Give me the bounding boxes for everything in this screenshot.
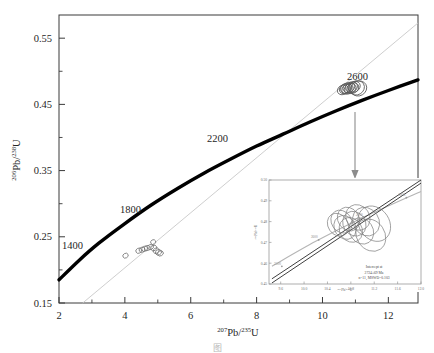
inset-plot: 9.610.010.410.811.211.612.0 0.450.460.47… xyxy=(251,178,425,292)
x-tick-label: 10 xyxy=(317,310,328,321)
age-label-1400: 1400 xyxy=(62,240,83,251)
inset-y-tick-label: 0.50 xyxy=(261,178,267,182)
y-axis-title-post: U xyxy=(11,139,22,147)
inset-x-tick-label: 10.4 xyxy=(324,287,330,291)
inset-annotation-line2: 2724±69 Ma xyxy=(365,271,384,275)
inset-y-title-post: U xyxy=(254,224,258,227)
inset-x-tick-label: 11.6 xyxy=(395,287,401,291)
inset-age-tick xyxy=(281,265,283,267)
x-axis-title-post: U xyxy=(251,327,259,338)
age-label-2600: 2600 xyxy=(347,71,368,82)
concordia-plot-svg: 24681012 0.150.250.350.450.55 1400 1800 … xyxy=(0,0,434,353)
inset-annotation-line1: Intercept at xyxy=(366,265,383,269)
age-label-2200: 2200 xyxy=(207,133,228,144)
x-tick-label: 8 xyxy=(254,310,259,321)
inset-y-tick-label: 0.46 xyxy=(261,262,267,266)
inset-age-tick xyxy=(363,216,365,218)
inset-x-tick-label: 10.0 xyxy=(301,287,307,291)
inset-x-title-post: U xyxy=(350,288,353,292)
x-tick-label: 12 xyxy=(383,310,394,321)
inset-x-tick-label: 9.6 xyxy=(278,287,283,291)
inset-y-tick-label: 0.45 xyxy=(261,282,267,286)
inset-y-tick-label: 0.48 xyxy=(261,220,267,224)
inset-age-tick xyxy=(318,239,320,241)
age-label-1800: 1800 xyxy=(120,204,141,215)
y-tick-label: 0.25 xyxy=(34,231,52,242)
figure-background xyxy=(0,0,434,353)
y-axis-title-mid: Pb/ xyxy=(11,157,22,171)
x-tick-label: 2 xyxy=(56,310,61,321)
inset-age-label: 2600 xyxy=(311,235,318,239)
inset-x-tick-label: 12.0 xyxy=(418,287,424,291)
inset-age-tick xyxy=(405,197,407,199)
x-tick-label: 6 xyxy=(188,310,193,321)
inset-age-label: 2500 xyxy=(274,262,281,266)
figure-caption: 图 xyxy=(213,343,222,353)
inset-y-tick-label: 0.47 xyxy=(261,241,267,245)
inset-age-label: 2800 xyxy=(399,193,406,197)
inset-age-label: 2700 xyxy=(356,213,363,217)
concordia-figure: 24681012 0.150.250.350.450.55 1400 1800 … xyxy=(0,0,434,353)
x-axis-title-mid: Pb/ xyxy=(227,327,241,338)
x-tick-label: 4 xyxy=(122,310,128,321)
inset-y-tick-label: 0.49 xyxy=(261,199,267,203)
y-tick-label: 0.15 xyxy=(34,298,52,309)
y-tick-label: 0.55 xyxy=(34,33,52,44)
inset-x-tick-label: 11.2 xyxy=(371,287,377,291)
y-tick-label: 0.35 xyxy=(34,165,52,176)
y-tick-label: 0.45 xyxy=(34,99,52,110)
